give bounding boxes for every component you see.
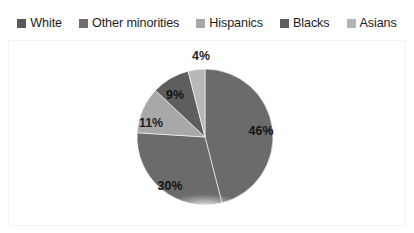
legend-item-other-minorities[interactable]: Other minorities: [79, 17, 179, 30]
pie-chart-figure: White Other minorities Hispanics Blacks …: [0, 0, 414, 233]
legend-item-blacks[interactable]: Blacks: [280, 17, 330, 30]
legend-item-white[interactable]: White: [17, 17, 62, 30]
chart-legend: White Other minorities Hispanics Blacks …: [0, 10, 414, 36]
legend-label-white: White: [30, 17, 62, 30]
square-swatch-icon: [280, 19, 289, 28]
legend-item-asians[interactable]: Asians: [347, 17, 397, 30]
square-swatch-icon: [196, 19, 205, 28]
legend-label-hispanics: Hispanics: [209, 17, 263, 30]
square-swatch-icon: [17, 19, 26, 28]
legend-label-blacks: Blacks: [293, 17, 330, 30]
square-swatch-icon: [347, 19, 356, 28]
plot-area: [8, 40, 406, 226]
square-swatch-icon: [79, 19, 88, 28]
legend-label-other-minorities: Other minorities: [92, 17, 179, 30]
legend-label-asians: Asians: [360, 17, 397, 30]
legend-item-hispanics[interactable]: Hispanics: [196, 17, 263, 30]
